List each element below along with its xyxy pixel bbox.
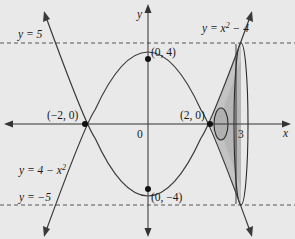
point-2-0	[207, 121, 213, 127]
x-tick-3: 3	[238, 128, 244, 140]
curve-arrow-bottom-right-icon	[246, 226, 253, 237]
diagram-canvas: y x 0 3 y = 5 y = −5 y = x2 − 4 y = 4 − …	[0, 0, 295, 239]
curve-arrow-bottom-left-icon	[43, 226, 50, 237]
origin-label: 0	[137, 128, 143, 140]
point-neg2-0	[82, 121, 88, 127]
y-axis-up-arrow-icon	[145, 4, 152, 13]
label-x2-minus-4: y = x2 − 4	[201, 21, 249, 35]
x-axis-left-arrow-icon	[4, 121, 13, 128]
point-label-0-neg4: (0, −4)	[151, 191, 183, 204]
point-label-2-0: (2, 0)	[180, 109, 205, 122]
label-4-minus-x2: y = 4 − x2	[18, 163, 66, 177]
y-axis-label: y	[136, 8, 143, 21]
label-y-5: y = 5	[17, 28, 43, 41]
curve-arrow-top-left-icon	[43, 11, 50, 22]
y-axis-down-arrow-icon	[145, 228, 152, 237]
point-label-0-4: (0, 4)	[151, 46, 176, 59]
x-axis-label: x	[282, 127, 289, 139]
point-label-neg2-0: (−2, 0)	[47, 109, 79, 122]
label-y-minus-5: y = −5	[18, 191, 51, 204]
curve-arrow-top-right-icon	[246, 11, 253, 22]
